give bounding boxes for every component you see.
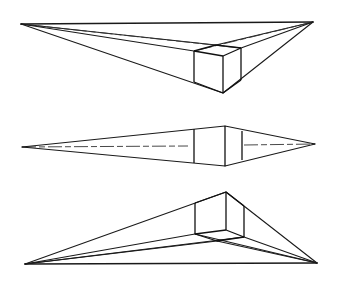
vp-right-to-bottom-back [217,241,317,263]
cube-bottom-edge [226,230,244,237]
cube-bottom-edge [217,237,244,241]
cube-top-edge [195,192,226,203]
cube-top-edge [194,51,223,56]
vp-right-to-bottom-right [244,237,317,263]
cube-bottom-edge [195,234,217,241]
cube-bottom-edge [195,230,226,234]
cube-bottom-edge [194,82,223,93]
horizon-line [25,263,317,264]
vp-left-to-bottom-left [25,234,195,264]
perspective-diagram [0,0,339,287]
vp-right-to-top-right [241,22,313,48]
cube-top-edge [226,192,244,206]
cube-top-edge [194,45,216,51]
vp-right-to-top-front [225,126,315,144]
vp-left-guide [21,24,241,48]
vp-left-to-bottom-back [25,241,217,264]
cube-bottom-edge [223,80,241,93]
cube-above-horizon-figure [25,192,317,264]
vp-left-to-top-left [21,24,194,51]
horizon-line [21,22,313,24]
cube-below-horizon-figure [21,22,313,93]
cube-top-edge [223,48,241,56]
horizon-line-left [22,146,188,147]
horizon-line-right [244,144,315,145]
cube-on-horizon-figure [22,126,315,166]
vp-right-to-bottom-front [225,144,315,166]
cube-top-edge [216,45,241,48]
